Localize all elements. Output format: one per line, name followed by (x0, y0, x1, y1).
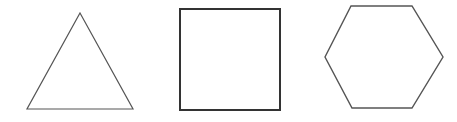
hexagon-shape (325, 6, 443, 108)
shapes-illustration (0, 0, 457, 122)
triangle-shape (27, 13, 133, 109)
shapes-canvas (0, 0, 457, 122)
square-shape (180, 9, 280, 110)
